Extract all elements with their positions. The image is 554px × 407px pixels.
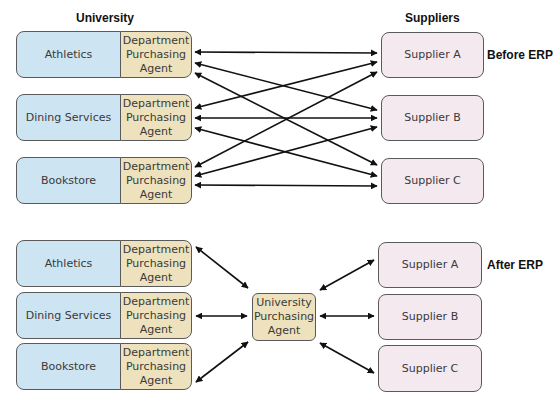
connection-arrows <box>0 0 554 407</box>
arrow-athletics-supplier-a <box>195 52 377 53</box>
arrow-dining-supplier-a <box>195 62 377 108</box>
arrow-after-bookstore-central <box>196 342 248 382</box>
arrow-after-central-supplier-c <box>320 343 374 373</box>
arrow-bookstore-supplier-c <box>195 185 377 186</box>
arrow-after-athletics-central <box>196 247 248 288</box>
arrow-after-central-supplier-a <box>320 260 374 290</box>
